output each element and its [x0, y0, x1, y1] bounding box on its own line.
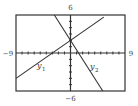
ymax-label: 6 — [68, 4, 73, 12]
xmin-label: −9 — [3, 50, 13, 58]
y1-label-sub: 1 — [42, 66, 46, 72]
ymin-label: −6 — [65, 95, 76, 103]
axes — [16, 15, 125, 91]
graph-plot: 6 −6 −9 9 y 1 y 2 — [0, 0, 138, 106]
xmax-label: 9 — [129, 50, 133, 58]
y2-label-sub: 2 — [95, 67, 99, 73]
